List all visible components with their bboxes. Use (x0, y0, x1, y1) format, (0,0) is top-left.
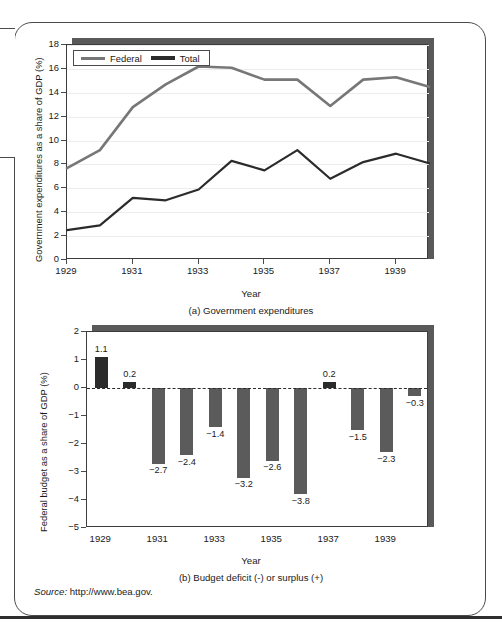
x-tick-label: 1929 (55, 266, 76, 276)
y-tick (61, 92, 66, 93)
chart-panel-government-expenditures: Government expenditures as a share of GD… (0, 0, 502, 320)
plot-area-b: 1.10.2−2.7−2.4−1.4−3.2−2.6−3.80.2−1.5−2.… (86, 331, 428, 527)
x-tick-label: 1931 (147, 534, 168, 544)
x-tick (395, 259, 396, 264)
y-tick (81, 443, 86, 444)
bar (209, 388, 222, 427)
y-tick-label: 0 (54, 254, 59, 263)
y-tick-label: 0 (74, 382, 79, 391)
y-tick-label: 12 (49, 111, 59, 120)
y-tick-label: 16 (49, 63, 59, 72)
y-tick-label: −3 (68, 466, 79, 475)
source-label: Source: (34, 586, 67, 597)
bar-value-label: 0.2 (323, 370, 336, 379)
bar-value-label: −2.6 (263, 463, 281, 472)
y-tick (81, 527, 86, 528)
y-tick (81, 331, 86, 332)
panel-caption-a: (a) Government expenditures (0, 305, 502, 316)
chart-panel-budget-deficit: Federal budget as a share of GDP (%) 1.1… (0, 320, 502, 620)
bar (180, 388, 193, 455)
x-axis-title-b: Year (0, 555, 502, 566)
x-tick (263, 259, 264, 264)
x-tick-label: 1935 (261, 534, 282, 544)
x-tick-label: 1933 (204, 534, 225, 544)
y-tick (81, 359, 86, 360)
x-tick (132, 259, 133, 264)
y-tick-label: 8 (54, 159, 59, 168)
y-tick-label: −4 (68, 494, 79, 503)
y-tick-label: 10 (49, 135, 59, 144)
legend-label-total: Total (180, 54, 200, 63)
legend-label-federal: Federal (110, 54, 142, 63)
bar-value-label: −3.8 (292, 497, 310, 506)
y-tick-label: 18 (49, 39, 59, 48)
bar (294, 388, 307, 494)
bar (95, 357, 108, 388)
y-tick (61, 235, 66, 236)
legend-swatch-federal (81, 57, 105, 60)
y-tick (81, 471, 86, 472)
y-tick (81, 415, 86, 416)
bar (408, 388, 421, 396)
x-tick (198, 259, 199, 264)
bar-value-label: −3.2 (235, 480, 253, 489)
x-tick-label: 1937 (318, 534, 339, 544)
x-tick-label: 1937 (319, 266, 340, 276)
line-series-svg-a (67, 45, 429, 260)
y-tick-label: 14 (49, 87, 59, 96)
bar-value-label: 1.1 (95, 345, 108, 354)
y-tick-label: 2 (54, 230, 59, 239)
x-axis-title-a: Year (0, 288, 502, 299)
bar-value-label: −2.3 (377, 455, 395, 464)
y-axis-title-a: Government expenditures as a share of GD… (33, 57, 44, 262)
bar-value-label: −2.4 (178, 458, 196, 467)
plot-area-a: 024681012141618 192919311933193519371939… (66, 44, 428, 259)
y-tick (61, 140, 66, 141)
bar-value-label: 0.2 (123, 370, 136, 379)
x-tick-label: 1935 (253, 266, 274, 276)
zero-baseline-b (87, 388, 427, 389)
bar (152, 388, 165, 464)
y-axis-title-b: Federal budget as a share of GDP (%) (38, 372, 49, 532)
legend-item-federal: Federal (81, 54, 142, 63)
bar (351, 388, 364, 430)
bar-value-label: −1.5 (349, 433, 367, 442)
y-tick (61, 187, 66, 188)
y-tick-label: 2 (74, 326, 79, 335)
y-tick (81, 499, 86, 500)
x-tick-label: 1931 (121, 266, 142, 276)
x-tick-label: 1933 (187, 266, 208, 276)
x-tick-label: 1929 (90, 534, 111, 544)
x-tick (66, 259, 67, 264)
legend-item-total: Total (151, 54, 200, 63)
y-tick (81, 387, 86, 388)
y-tick-label: 1 (74, 354, 79, 363)
y-tick-label: −5 (68, 522, 79, 531)
y-tick-label: 6 (54, 183, 59, 192)
y-tick (61, 211, 66, 212)
bar-value-label: −0.3 (406, 399, 424, 408)
x-tick-label: 1939 (384, 266, 405, 276)
y-tick-label: −2 (68, 438, 79, 447)
source-note: Source: http://www.bea.gov. (34, 586, 153, 597)
plot-shadow-right-b (428, 325, 434, 527)
source-url: http://www.bea.gov. (70, 586, 153, 597)
x-tick (329, 259, 330, 264)
line-total (67, 67, 429, 169)
legend-swatch-total (151, 56, 175, 60)
panel-caption-b: (b) Budget deficit (-) or surplus (+) (0, 572, 502, 583)
bar-value-label: −1.4 (206, 430, 224, 439)
plot-box-a (66, 44, 428, 259)
plot-box-b: 1.10.2−2.7−2.4−1.4−3.2−2.6−3.80.2−1.5−2.… (86, 331, 428, 527)
bar (380, 388, 393, 452)
y-tick (61, 163, 66, 164)
bar (266, 388, 279, 461)
bar (237, 388, 250, 478)
y-tick-label: 4 (54, 207, 59, 216)
y-tick (61, 44, 66, 45)
line-federal (67, 150, 429, 230)
y-tick (61, 68, 66, 69)
x-tick-label: 1939 (375, 534, 396, 544)
bar-value-label: −2.7 (149, 466, 167, 475)
y-tick-label: −1 (68, 410, 79, 419)
